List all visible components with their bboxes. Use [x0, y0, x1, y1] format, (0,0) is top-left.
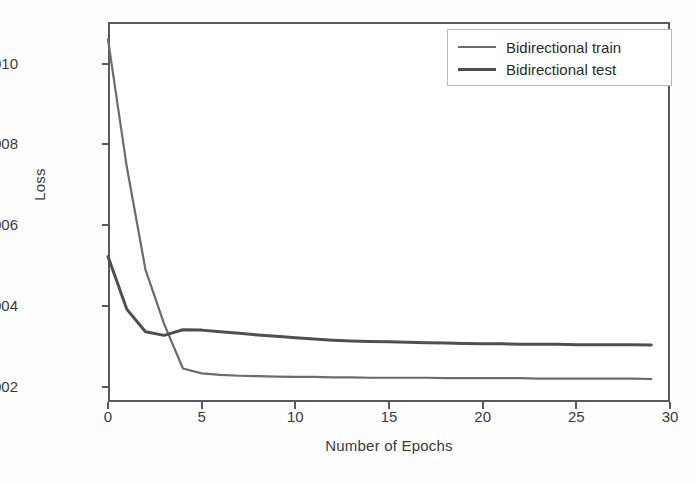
x-tick-label: 20	[463, 408, 503, 425]
chart-figure: Loss 0.0020.0040.0060.0080.010 051015202…	[0, 0, 696, 484]
y-tick-label: 0.008	[0, 136, 18, 152]
x-tick-label: 10	[275, 408, 315, 425]
x-tick-label: 15	[369, 408, 409, 425]
y-tick-label: 0.004	[0, 298, 18, 314]
chart-legend: Bidirectional train Bidirectional test	[447, 29, 672, 86]
y-tick-label: 0.006	[0, 217, 18, 233]
x-tick-mark	[482, 402, 484, 409]
legend-item-bidirectional-train: Bidirectional train	[458, 36, 663, 58]
x-axis-label: Number of Epochs	[108, 437, 670, 454]
x-tick-mark	[575, 402, 577, 409]
x-tick-mark	[388, 402, 390, 409]
legend-label: Bidirectional test	[506, 61, 616, 78]
legend-label: Bidirectional train	[506, 39, 621, 56]
x-tick-mark	[294, 402, 296, 409]
x-tick-label: 5	[182, 408, 222, 425]
x-tick-label: 30	[650, 408, 690, 425]
y-axis-label: Loss	[31, 140, 48, 230]
x-tick-mark	[107, 402, 109, 409]
legend-item-bidirectional-test: Bidirectional test	[458, 58, 663, 80]
x-tick-mark	[201, 402, 203, 409]
y-tick-label: 0.002	[0, 379, 18, 395]
x-tick-label: 0	[88, 408, 128, 425]
legend-swatch-icon	[458, 68, 496, 71]
x-tick-mark	[669, 402, 671, 409]
y-tick-label: 0.010	[0, 56, 18, 72]
legend-swatch-icon	[458, 46, 496, 48]
x-tick-label: 25	[556, 408, 596, 425]
